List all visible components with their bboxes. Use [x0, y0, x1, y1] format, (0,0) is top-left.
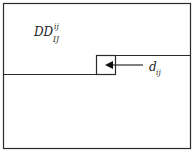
- region-label-subscript: IJ: [52, 35, 60, 44]
- region-label: DD: [33, 25, 54, 39]
- arrow-head-icon: [105, 61, 113, 69]
- diagram-canvas: DD ij IJ d ij: [0, 0, 194, 152]
- arrow-label-subscript: ij: [156, 68, 161, 77]
- region-label-superscript: ij: [54, 22, 59, 31]
- outer-frame: [4, 4, 191, 149]
